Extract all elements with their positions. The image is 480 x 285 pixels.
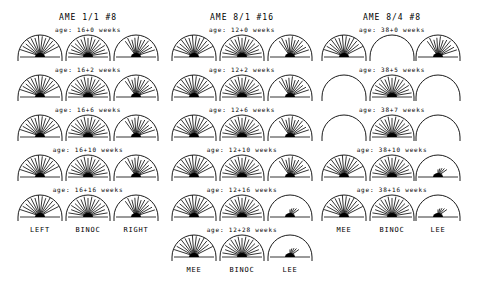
polar-plot <box>322 155 366 181</box>
polar-plot <box>268 75 312 101</box>
polar-plot <box>172 195 216 221</box>
age-label: age: 16+2 weeks <box>55 67 121 73</box>
column-label-binoc: BINOC <box>379 227 404 234</box>
polar-plot <box>268 195 312 221</box>
polar-plot <box>172 115 216 141</box>
polar-plot <box>220 195 264 221</box>
polar-plot <box>268 115 312 141</box>
polar-plot <box>18 195 62 221</box>
age-label: age: 38+16 weeks <box>357 187 428 193</box>
polar-plot <box>66 35 110 61</box>
age-label: age: 12+6 weeks <box>209 107 275 113</box>
age-label: age: 16+6 weeks <box>55 107 121 113</box>
polar-plot <box>114 75 158 101</box>
polar-plot <box>220 235 264 261</box>
polar-plot <box>220 115 264 141</box>
polar-plot <box>220 35 264 61</box>
polar-plot <box>370 115 414 141</box>
polar-plot <box>114 115 158 141</box>
age-label: age: 38+10 weeks <box>357 147 428 153</box>
polar-plot <box>66 115 110 141</box>
polar-plot <box>370 75 414 101</box>
column-label-lee: LEE <box>282 267 297 274</box>
polar-plot <box>416 195 460 221</box>
column-label-right: RIGHT <box>123 227 148 234</box>
column-label-binoc: BINOC <box>229 267 254 274</box>
age-label: age: 38+0 weeks <box>359 27 425 33</box>
polar-plot <box>114 35 158 61</box>
polar-plot <box>322 195 366 221</box>
polar-plot <box>370 35 414 61</box>
group-title-ame-8-4: AME 8/4 #8 <box>363 14 421 22</box>
age-label: age: 12+16 weeks <box>207 187 278 193</box>
polar-plot <box>370 195 414 221</box>
polar-plot <box>322 75 366 101</box>
polar-plot <box>220 155 264 181</box>
polar-plot <box>18 35 62 61</box>
polar-plot <box>114 155 158 181</box>
polar-plot <box>268 155 312 181</box>
age-label: age: 38+7 weeks <box>359 107 425 113</box>
polar-plot <box>66 75 110 101</box>
polar-plot <box>172 35 216 61</box>
polar-plot <box>268 235 312 261</box>
age-label: age: 12+10 weeks <box>207 147 278 153</box>
polar-plot <box>416 115 460 141</box>
polar-plot <box>18 155 62 181</box>
polar-plot <box>322 115 366 141</box>
polar-plot <box>172 75 216 101</box>
polar-plot <box>172 155 216 181</box>
polar-plot <box>416 155 460 181</box>
age-label: age: 12+0 weeks <box>209 27 275 33</box>
column-label-mee: MEE <box>336 227 351 234</box>
age-label: age: 38+5 weeks <box>359 67 425 73</box>
age-label: age: 12+2 weeks <box>209 67 275 73</box>
polar-plot <box>322 35 366 61</box>
age-label: age: 16+16 weeks <box>53 187 124 193</box>
age-label: age: 16+0 weeks <box>55 27 121 33</box>
column-label-binoc: BINOC <box>75 227 100 234</box>
polar-plot-canvas <box>0 0 480 285</box>
polar-plot <box>416 75 460 101</box>
polar-plot <box>18 115 62 141</box>
polar-plot <box>220 75 264 101</box>
polar-plot <box>66 155 110 181</box>
polar-plot <box>370 155 414 181</box>
polar-plot <box>268 35 312 61</box>
polar-plot <box>172 235 216 261</box>
polar-plot <box>66 195 110 221</box>
polar-plot <box>114 195 158 221</box>
age-label: age: 12+28 weeks <box>207 227 278 233</box>
age-label: age: 16+10 weeks <box>53 147 124 153</box>
group-title-ame-1-1: AME 1/1 #8 <box>59 14 117 22</box>
polar-plot <box>416 35 460 61</box>
column-label-lee: LEE <box>430 227 445 234</box>
group-title-ame-8-1: AME 8/1 #16 <box>210 14 274 22</box>
polar-plot <box>18 75 62 101</box>
column-label-left: LEFT <box>30 227 50 234</box>
column-label-mee: MEE <box>186 267 201 274</box>
